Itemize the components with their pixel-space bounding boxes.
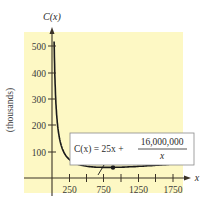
x-axis-arrow-icon (184, 176, 191, 181)
y-axis-arrow-icon (50, 27, 55, 34)
y-tick-label-300: 300 (32, 95, 47, 105)
y-axis-title: C(x) (43, 11, 61, 23)
y-unit-label: (thousands) (5, 88, 16, 132)
formula-denominator: x (159, 151, 165, 161)
x-tick-label-1750: 1750 (164, 185, 183, 195)
x-axis-title: x (194, 172, 200, 183)
x-tick-label-750: 750 (96, 185, 111, 195)
x-tick-label-250: 250 (62, 185, 77, 195)
cost-function-chart: 500 400 300 200 100 250 750 1250 1750 C(… (0, 0, 204, 204)
minimum-point-marker (111, 165, 115, 169)
formula-lhs: C(x) = 25x + (74, 144, 124, 155)
y-tick-label-400: 400 (32, 69, 47, 79)
plot-background (24, 32, 183, 193)
y-tick-label-500: 500 (32, 42, 47, 52)
y-tick-label-200: 200 (32, 121, 47, 131)
y-tick-label-100: 100 (32, 148, 47, 158)
formula-numerator: 16,000,000 (141, 137, 184, 147)
x-tick-label-1250: 1250 (129, 185, 148, 195)
